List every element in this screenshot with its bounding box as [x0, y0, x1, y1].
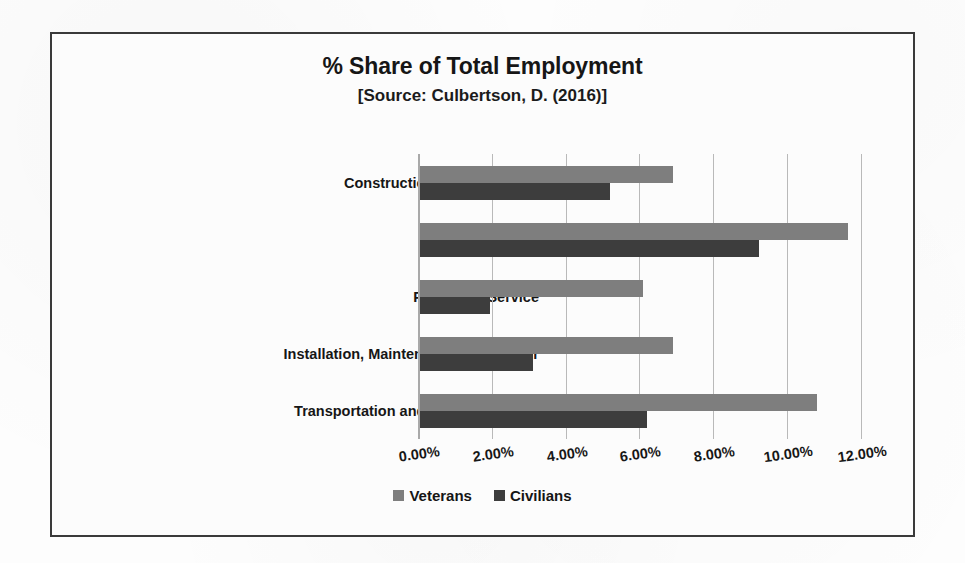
- bar-group: [420, 337, 878, 371]
- bar-veterans: [420, 280, 643, 297]
- bar-group: [420, 280, 878, 314]
- chart-frame: % Share of Total Employment [Source: Cul…: [50, 32, 915, 537]
- bar-civilians: [420, 183, 610, 200]
- legend-label: Veterans: [409, 487, 472, 504]
- bar-civilians: [420, 297, 490, 314]
- bar-veterans: [420, 166, 673, 183]
- legend-label: Civilians: [510, 487, 572, 504]
- tick-label: 4.00%: [545, 443, 588, 465]
- tick-label: 10.00%: [763, 443, 814, 466]
- legend-swatch-icon: [494, 490, 505, 501]
- value-axis-tick-labels: 0.00%2.00%4.00%6.00%8.00%10.00%12.00%: [418, 446, 878, 482]
- chart-subtitle: [Source: Culbertson, D. (2016)]: [52, 86, 913, 106]
- bar-veterans: [420, 394, 817, 411]
- tick-label: 8.00%: [693, 443, 736, 465]
- legend-swatch-icon: [393, 490, 404, 501]
- tick-label: 2.00%: [471, 443, 514, 465]
- bar-civilians: [420, 354, 533, 371]
- screenshot-root: % Share of Total Employment [Source: Cul…: [0, 0, 965, 563]
- plot-area: [418, 154, 878, 439]
- bar-civilians: [420, 411, 647, 428]
- chart-title: % Share of Total Employment: [52, 53, 913, 80]
- bar-group: [420, 166, 878, 200]
- tick-label: 6.00%: [619, 443, 662, 465]
- tick-label: 12.00%: [836, 443, 887, 466]
- bar-veterans: [420, 337, 673, 354]
- legend-item-veterans[interactable]: Veterans: [393, 487, 472, 504]
- tick-label: 0.00%: [398, 443, 441, 465]
- legend-item-civilians[interactable]: Civilians: [494, 487, 572, 504]
- chart-legend: VeteransCivilians: [52, 487, 913, 504]
- bar-veterans: [420, 223, 848, 240]
- bar-group: [420, 394, 878, 428]
- bar-group: [420, 223, 878, 257]
- bar-civilians: [420, 240, 759, 257]
